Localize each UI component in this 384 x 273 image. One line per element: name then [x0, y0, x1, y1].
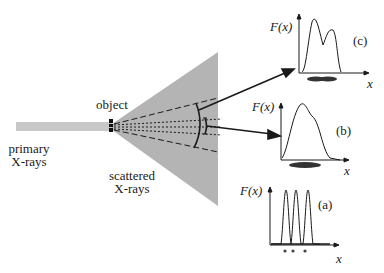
fx-label-a: F(x) [240, 184, 262, 197]
x-label-a: x [336, 252, 342, 265]
scattered-xrays-label: scattered X-rays [102, 169, 162, 195]
primary-label-line2: X-rays [0, 155, 58, 168]
object-marker [109, 128, 113, 132]
object-label: object [87, 98, 137, 111]
scattered-label-line2: X-rays [102, 182, 162, 195]
x-label-b: x [344, 164, 350, 177]
object-marker [109, 119, 113, 123]
panel-label-a: (a) [318, 198, 332, 211]
object-marker [109, 124, 113, 127]
fx-label-b: F(x) [252, 100, 274, 113]
primary-xrays-label: primary X-rays [0, 142, 58, 168]
fx-label-c: F(x) [270, 20, 292, 33]
panel-label-c: (c) [353, 34, 367, 47]
x-label-c: x [367, 77, 373, 90]
arrow-head-icon [282, 69, 294, 77]
panel-label-b: (b) [336, 124, 351, 137]
primary-beam [16, 122, 112, 131]
arrow-head-icon [268, 130, 280, 139]
diagram-canvas [0, 0, 384, 273]
